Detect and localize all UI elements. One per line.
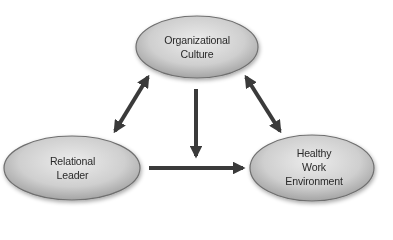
label-line: Culture bbox=[142, 47, 252, 61]
label-relational-leader: Relational Leader bbox=[20, 154, 126, 182]
label-healthy-work-environment: Healthy Work Environment bbox=[259, 146, 369, 188]
label-line: Healthy bbox=[259, 146, 369, 160]
label-line: Leader bbox=[20, 168, 126, 182]
label-line: Relational bbox=[20, 154, 126, 168]
label-line: Environment bbox=[259, 174, 369, 188]
arrow-culture-leader bbox=[115, 77, 148, 131]
label-organizational-culture: Organizational Culture bbox=[142, 33, 252, 61]
label-line: Work bbox=[259, 160, 369, 174]
label-line: Organizational bbox=[142, 33, 252, 47]
arrow-culture-environment bbox=[246, 77, 280, 131]
